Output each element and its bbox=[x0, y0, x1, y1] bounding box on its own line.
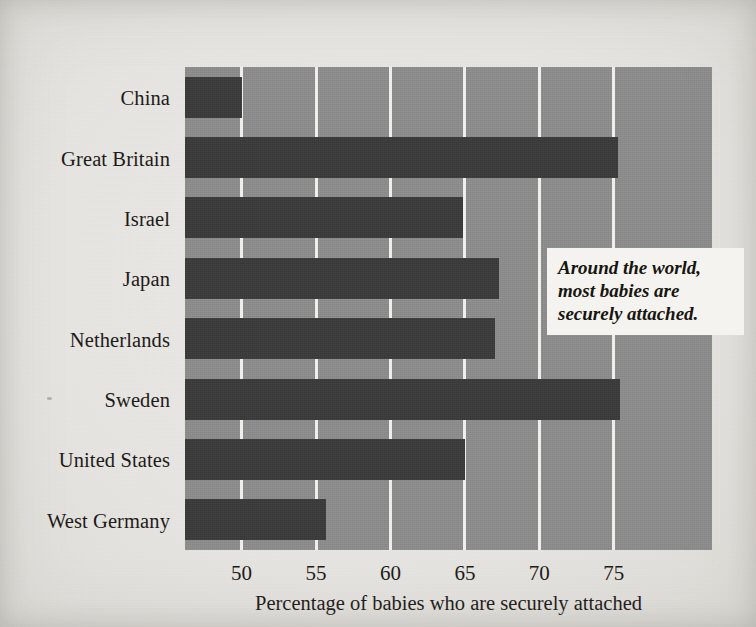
x-tick-label-60: 60 bbox=[380, 563, 401, 584]
bar-chart: ChinaGreat BritainIsraelJapanNetherlands… bbox=[0, 0, 756, 627]
callout-line-3: securely attached. bbox=[558, 303, 734, 326]
x-tick-label-55: 55 bbox=[306, 563, 327, 584]
callout-annotation: Around the world, most babies are secure… bbox=[547, 248, 744, 335]
callout-line-1: Around the world, bbox=[558, 257, 734, 280]
bar-united-states bbox=[185, 439, 465, 480]
x-tick-label-50: 50 bbox=[231, 563, 252, 584]
category-label-israel: Israel bbox=[124, 209, 170, 230]
bar-israel bbox=[185, 197, 463, 238]
callout-line-2: most babies are bbox=[558, 280, 734, 303]
x-tick-label-65: 65 bbox=[454, 563, 475, 584]
bar-great-britain bbox=[185, 137, 618, 178]
category-label-sweden: Sweden bbox=[104, 390, 170, 411]
bar-sweden bbox=[185, 379, 620, 420]
category-label-japan: Japan bbox=[123, 269, 170, 290]
bar-china bbox=[185, 77, 242, 118]
x-axis-title: Percentage of babies who are securely at… bbox=[185, 592, 712, 615]
category-label-great-britain: Great Britain bbox=[61, 149, 170, 170]
figure-root: ChinaGreat BritainIsraelJapanNetherlands… bbox=[0, 0, 756, 627]
bar-japan bbox=[185, 258, 499, 299]
category-label-netherlands: Netherlands bbox=[70, 330, 170, 351]
category-label-united-states: United States bbox=[59, 450, 170, 471]
bar-netherlands bbox=[185, 318, 495, 359]
x-tick-label-75: 75 bbox=[603, 563, 624, 584]
bar-west-germany bbox=[185, 499, 326, 540]
category-label-china: China bbox=[121, 88, 170, 109]
x-tick-label-70: 70 bbox=[529, 563, 550, 584]
category-label-west-germany: West Germany bbox=[47, 511, 170, 532]
